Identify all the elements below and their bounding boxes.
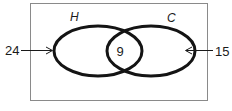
set-h-label: H <box>70 10 79 24</box>
arrow-left-icon <box>186 47 214 54</box>
set-c-only-value: 15 <box>215 44 229 59</box>
venn-diagram: H C 9 24 15 <box>0 0 232 111</box>
intersection-value: 9 <box>116 44 123 59</box>
set-h-ellipse <box>54 26 142 76</box>
arrow-right-icon <box>21 47 53 54</box>
set-h-only-value: 24 <box>5 43 19 58</box>
set-c-label: C <box>167 11 176 25</box>
